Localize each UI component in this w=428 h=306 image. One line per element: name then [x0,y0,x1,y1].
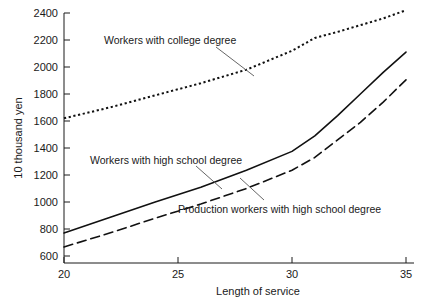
y-tick-label-1800: 1800 [34,88,58,100]
chart-axes [64,13,414,263]
x-axis-ticks [64,257,406,263]
series-label-production: Production workers with high school degr… [178,203,381,215]
line-chart: 600 800 1000 1200 1400 1600 1800 2000 22… [0,0,428,306]
y-tick-label-1000: 1000 [34,196,58,208]
y-tick-label-1400: 1400 [34,142,58,154]
chart-container: 600 800 1000 1200 1400 1600 1800 2000 22… [0,0,428,306]
y-tick-label-600: 600 [40,250,58,262]
y-tick-label-1600: 1600 [34,115,58,127]
x-tick-label-30: 30 [286,268,298,280]
y-axis-ticks [64,13,70,256]
y-tick-label-1200: 1200 [34,169,58,181]
y-tick-label-2200: 2200 [34,34,58,46]
x-axis-title: Length of service [216,285,300,297]
x-tick-label-20: 20 [58,268,70,280]
x-tick-label-35: 35 [400,268,412,280]
series-label-college: Workers with college degree [104,34,236,46]
y-tick-label-2400: 2400 [34,7,58,19]
series-line-1 [64,10,406,118]
y-axis-title: 10 thousand yen [12,97,24,178]
x-tick-label-25: 25 [172,268,184,280]
y-tick-label-2000: 2000 [34,61,58,73]
y-tick-label-800: 800 [40,223,58,235]
series-label-high-school: Workers with high school degree [90,154,242,166]
